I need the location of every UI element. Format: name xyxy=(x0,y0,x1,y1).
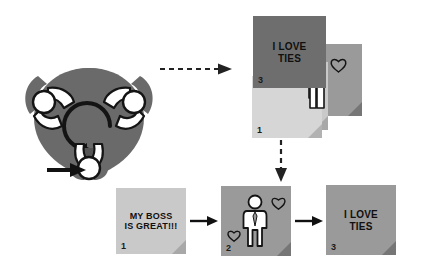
sequence-card-3[interactable]: I LOVETIES 3 xyxy=(326,185,396,255)
card-sequence: MY BOSSIS GREAT!!! 1 2 xyxy=(108,182,420,260)
heart-outline-icon xyxy=(330,58,347,73)
person-with-tie-icon xyxy=(240,194,270,248)
card-text: MY BOSSIS GREAT!!! xyxy=(116,211,186,232)
card-text: I LOVETIES xyxy=(326,209,396,232)
card-stack: 2 CO 2 1 I LOVETIES xyxy=(240,14,370,142)
sequence-card-1[interactable]: MY BOSSIS GREAT!!! 1 xyxy=(116,188,186,254)
rotating-group xyxy=(14,40,164,180)
heart-outline-icon xyxy=(271,197,286,210)
solid-black-arrow xyxy=(46,160,88,180)
card-number: 3 xyxy=(258,76,263,85)
card-number: 1 xyxy=(121,242,126,251)
dashed-arrow-down xyxy=(272,140,290,184)
solid-arrow-right xyxy=(295,214,325,228)
card-number: 2 xyxy=(226,244,231,253)
card-number: 3 xyxy=(331,243,336,252)
diagram-canvas: 2 CO 2 1 I LOVETIES xyxy=(0,0,428,280)
card-text: I LOVETIES xyxy=(253,41,326,64)
sequence-card-2[interactable]: 2 xyxy=(221,186,291,256)
stack-card-3[interactable]: I LOVETIES 3 xyxy=(253,16,326,88)
card-number: 1 xyxy=(257,126,262,135)
solid-arrow-right xyxy=(190,214,220,228)
dashed-arrow-right xyxy=(160,60,240,78)
rotating-group-graphic xyxy=(14,40,164,180)
heart-outline-icon xyxy=(227,230,241,242)
